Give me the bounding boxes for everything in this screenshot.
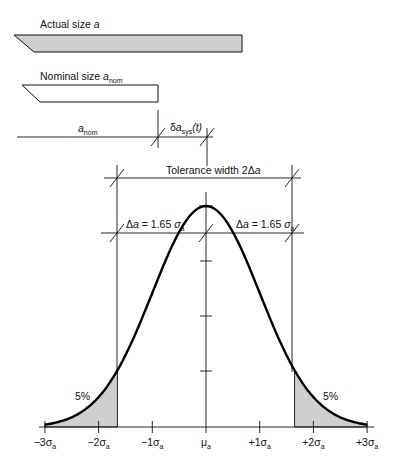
x-axis-tick-label: +2σa — [302, 436, 324, 450]
x-axis-tick-label: −3σa — [34, 436, 56, 450]
x-axis-tick-label: −1σa — [141, 436, 163, 450]
tolerance-width-label: Tolerance width 2Δa — [166, 164, 261, 176]
nominal-size-bar — [22, 85, 158, 102]
x-axis-tick-label: +3σa — [356, 436, 378, 450]
delta-a-right-label: Δa = 1.65 σa — [236, 218, 295, 232]
x-axis-tick-labels: −3σa−2σa−1σaμa+1σa+2σa+3σa — [34, 436, 379, 450]
nominal-size-label: Nominal size anom — [40, 70, 123, 84]
tolerance-diagram: Actual size a Nominal size anom anom δas… — [0, 0, 395, 466]
x-axis-tick-label: −2σa — [87, 436, 109, 450]
mean-axis — [199, 192, 213, 433]
x-axis-tick-label: +1σa — [249, 436, 271, 450]
actual-size-label: Actual size a — [40, 18, 100, 30]
a-nom-label: anom — [78, 122, 98, 136]
right-tail-percent: 5% — [323, 390, 338, 402]
left-tail-percent: 5% — [75, 390, 90, 402]
x-axis-tick-label: μa — [201, 436, 211, 450]
actual-size-bar — [14, 35, 242, 52]
delta-a-left-label: Δa = 1.65 σa — [126, 218, 185, 232]
a-nom-dimension — [17, 110, 214, 166]
delta-sys-label: δasys(t) — [170, 121, 202, 136]
